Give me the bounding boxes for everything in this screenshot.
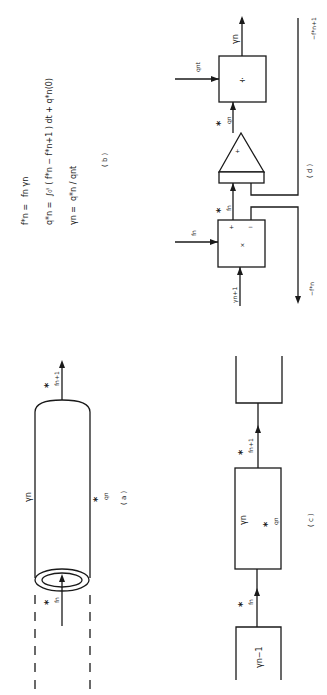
arrowhead <box>255 425 261 433</box>
svg-text:fn: fn <box>190 230 197 236</box>
label-feedback-in: −f*n+1 <box>310 17 317 40</box>
label-inflow: * fn <box>43 597 60 605</box>
svg-text:q*n =: q*n = <box>45 202 54 225</box>
arrowhead <box>230 183 236 191</box>
label-qnt: qnt <box>194 61 202 72</box>
label-f-n: * fn <box>237 599 254 607</box>
caption-b: ( b ) <box>101 152 109 167</box>
arrowhead <box>230 102 236 110</box>
label-gamma-in: γn+1 <box>231 287 239 303</box>
svg-text:( b ): ( b ) <box>101 152 109 167</box>
integrator-plus: + <box>235 147 240 154</box>
caption-a: ( a ) <box>120 491 128 505</box>
svg-text:q*n / qnt: q*n / qnt <box>69 166 78 201</box>
panel-a: * fn * fn+1 γn * qn ( a ) <box>24 360 128 690</box>
arrowhead <box>59 574 65 582</box>
svg-text:fn γn: fn γn <box>21 177 30 197</box>
label-gamma-out: γn <box>231 34 240 44</box>
svg-text:fn+1: fn+1 <box>53 371 60 386</box>
caption-c: ( c ) <box>307 513 315 527</box>
svg-text:qn: qn <box>225 116 233 124</box>
panel-d: ÷ qnt γn + * qn −f*n+1 × + − <box>175 16 317 306</box>
equation-2: q*n = ∫₀ᵗ ( f*n − f*n+1 ) dt + q*n(0) <box>45 78 54 225</box>
label-fn: fn <box>190 230 197 236</box>
svg-text:qn: qn <box>272 517 280 525</box>
svg-text:fn: fn <box>225 205 232 211</box>
block-current-label: γn <box>239 515 248 525</box>
panel-b: f*n = fn γn q*n = ∫₀ᵗ ( f*n − f*n+1 ) dt… <box>21 78 109 225</box>
arrowhead <box>295 296 301 304</box>
svg-text:fn: fn <box>247 599 254 605</box>
caption-d: ( d ) <box>306 163 314 178</box>
multiplier-symbol: × <box>240 241 245 248</box>
label-f-n1: * fn+1 <box>237 438 254 455</box>
svg-text:( d ): ( d ) <box>306 163 314 178</box>
svg-text:qnt: qnt <box>194 61 202 72</box>
svg-text:γn−1: γn−1 <box>255 646 264 668</box>
panel-c: * fn+1 * fn γn * qn γn−1 ( c ) <box>235 356 315 680</box>
arrowhead <box>239 16 245 24</box>
label-feedback-out: −f*n <box>308 282 315 296</box>
arrowhead <box>211 76 219 82</box>
arrowhead <box>59 360 65 368</box>
svg-text:fn+1: fn+1 <box>247 438 254 453</box>
arrowhead <box>237 267 243 275</box>
svg-text:qn: qn <box>102 492 110 500</box>
label-q-star: * qn <box>215 116 233 126</box>
svg-text:−f*n+1: −f*n+1 <box>310 17 317 40</box>
label-outflow: * fn+1 <box>43 371 60 388</box>
svg-text:γn =: γn = <box>69 206 78 225</box>
integrator-triangle <box>219 133 264 172</box>
pipe-top-cap <box>35 400 90 412</box>
svg-text:( a ): ( a ) <box>120 491 128 505</box>
equation-3: γn = q*n / qnt <box>69 166 78 225</box>
block-next <box>236 356 282 403</box>
arrowhead <box>210 239 218 245</box>
block-previous-label: γn−1 <box>255 646 264 668</box>
svg-text:−f*n: −f*n <box>308 282 315 296</box>
svg-text:∫₀ᵗ ( f*n − f*n+1 ) dt + q*n(0: ∫₀ᵗ ( f*n − f*n+1 ) dt + q*n(0) <box>45 78 54 197</box>
svg-text:γn: γn <box>24 492 33 502</box>
svg-text:f*n =: f*n = <box>21 204 30 225</box>
svg-text:( c ): ( c ) <box>307 513 315 527</box>
figure-canvas: * fn * fn+1 γn * qn ( a ) f*n = fn γn q*… <box>0 0 327 695</box>
equation-1: f*n = fn γn <box>21 177 30 225</box>
svg-text:γn: γn <box>231 34 240 44</box>
svg-text:γn+1: γn+1 <box>231 287 239 303</box>
multiplier-minus: − <box>248 223 253 230</box>
divider-symbol: ÷ <box>239 76 246 85</box>
label-resistance: γn <box>24 492 33 502</box>
arrowhead <box>254 588 260 596</box>
label-f-star: * fn <box>215 205 232 213</box>
multiplier-plus: + <box>229 223 234 230</box>
integrator-base <box>219 172 264 183</box>
label-charge: * qn <box>92 492 110 502</box>
svg-text:γn: γn <box>239 515 248 525</box>
svg-text:fn: fn <box>53 597 60 603</box>
